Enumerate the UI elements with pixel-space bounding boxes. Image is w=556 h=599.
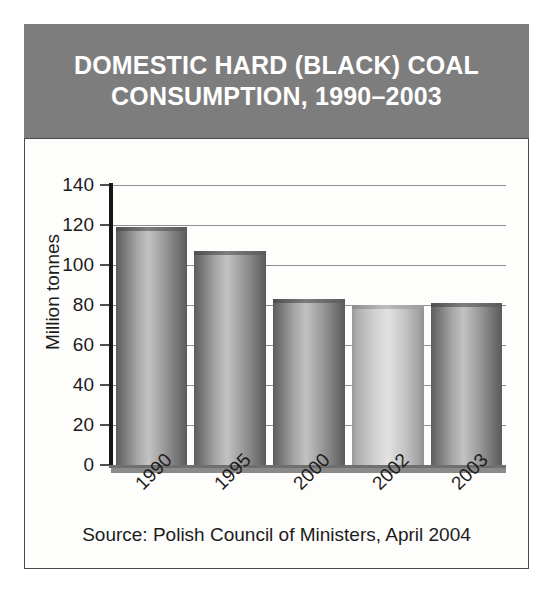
y-axis-tick-label: 100: [34, 254, 94, 276]
y-axis-tick-label: 120: [34, 214, 94, 236]
source-note: Source: Polish Council of Ministers, Apr…: [25, 524, 528, 546]
bar-body: [273, 299, 345, 465]
bar-body: [431, 303, 503, 465]
bar-cap: [352, 305, 424, 309]
y-axis-tick-label: 140: [34, 174, 94, 196]
page-title: DOMESTIC HARD (BLACK) COAL CONSUMPTION, …: [24, 50, 529, 112]
chart-title-line-1: DOMESTIC HARD (BLACK) COAL: [74, 51, 479, 79]
chart-panel: Million tonnes 020406080100120140 199019…: [24, 138, 529, 569]
bar-cap: [273, 299, 345, 303]
gridline: [111, 225, 506, 226]
y-axis-tick-label: 0: [34, 454, 94, 476]
bar-cap: [194, 251, 266, 255]
y-axis-tick-label: 40: [34, 374, 94, 396]
y-axis-tick-label: 80: [34, 294, 94, 316]
bar-1995: [194, 251, 266, 465]
chart-title-line-2: CONSUMPTION, 1990–2003: [32, 81, 521, 112]
gridline: [111, 185, 506, 186]
plot-area: Million tonnes 020406080100120140 199019…: [25, 139, 528, 567]
bar-body: [194, 251, 266, 465]
bar-2002: [352, 305, 424, 465]
y-axis-tick-label: 60: [34, 334, 94, 356]
bar-2000: [273, 299, 345, 465]
y-axis-line: [109, 183, 113, 467]
bar-cap: [116, 227, 188, 231]
chart-title-band: DOMESTIC HARD (BLACK) COAL CONSUMPTION, …: [24, 24, 529, 138]
y-axis-tick-label: 20: [34, 414, 94, 436]
bar-body: [352, 305, 424, 465]
bar-body: [116, 227, 188, 465]
chart-figure: DOMESTIC HARD (BLACK) COAL CONSUMPTION, …: [24, 24, 529, 569]
bar-2003: [431, 303, 503, 465]
bar-1990: [116, 227, 188, 465]
bar-cap: [431, 303, 503, 307]
